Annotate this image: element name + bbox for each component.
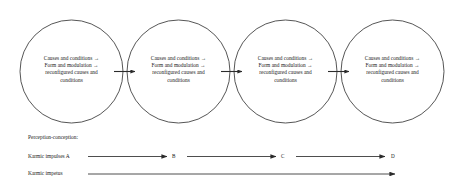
node-label-1-line-4: conditions: [21, 77, 122, 84]
node-label-3-line-3: reconfigured causes and: [235, 69, 336, 76]
node-label-2-line-2: Form and modulation →: [128, 62, 229, 69]
node-label-3-line-4: conditions: [235, 77, 336, 84]
diagram-canvas: Causes and conditions → Form and modulat…: [0, 0, 457, 188]
node-label-3: Causes and conditions → Form and modulat…: [235, 55, 336, 84]
stage-letter-b: B: [172, 153, 175, 160]
node-label-2-line-3: reconfigured causes and: [128, 69, 229, 76]
karmic-impetus-label: Karmic impetus: [28, 170, 63, 177]
node-label-2: Causes and conditions → Form and modulat…: [128, 55, 229, 84]
node-label-1-line-3: reconfigured causes and: [21, 69, 122, 76]
node-label-2-line-4: conditions: [128, 77, 229, 84]
node-label-4-line-2: Form and modulation →: [342, 62, 443, 69]
node-label-1-line-1: Causes and conditions →: [21, 55, 122, 62]
stage-letter-d: D: [391, 153, 395, 160]
node-label-4: Causes and conditions → Form and modulat…: [342, 55, 443, 84]
node-label-3-line-2: Form and modulation →: [235, 62, 336, 69]
node-label-4-line-4: conditions: [342, 77, 443, 84]
node-label-4-line-3: reconfigured causes and: [342, 69, 443, 76]
node-label-4-line-1: Causes and conditions →: [342, 55, 443, 62]
perception-conception-label: Perception-conception:: [28, 134, 78, 141]
karmic-impulses-label: Karmic impulses A: [28, 153, 70, 160]
node-label-1: Causes and conditions → Form and modulat…: [21, 55, 122, 84]
node-label-2-line-1: Causes and conditions →: [128, 55, 229, 62]
stage-letter-c: C: [281, 153, 284, 160]
node-label-3-line-1: Causes and conditions →: [235, 55, 336, 62]
node-label-1-line-2: Form and modulation →: [21, 62, 122, 69]
